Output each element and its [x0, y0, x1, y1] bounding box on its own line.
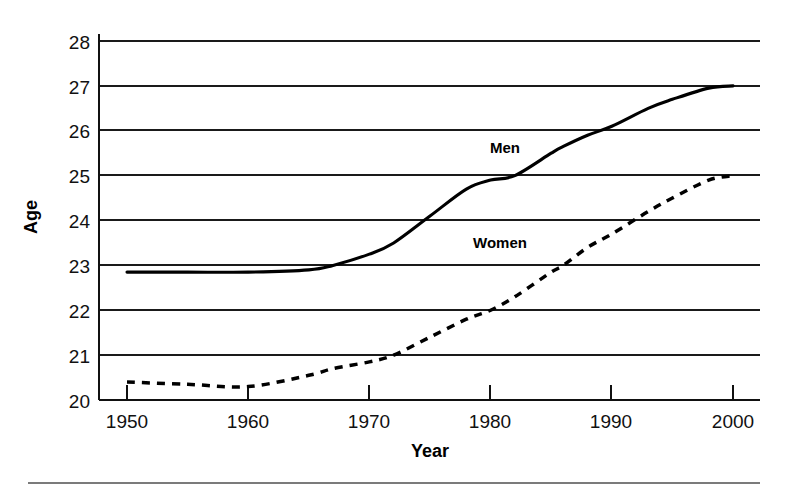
- y-tick-label-21: 21: [69, 346, 90, 367]
- y-tick-label-24: 24: [69, 211, 91, 232]
- y-tick-labels: 28 27 26 25 24 23 22 21 20: [69, 32, 91, 412]
- y-tick-label-22: 22: [69, 301, 90, 322]
- x-tick-labels: 1950 1960 1970 1980 1990 2000: [106, 411, 754, 432]
- y-tick-label-25: 25: [69, 166, 90, 187]
- x-tick-label-1980: 1980: [469, 411, 511, 432]
- series-label-women: Women: [473, 234, 527, 251]
- y-tick-label-27: 27: [69, 77, 90, 98]
- series-line-men: [127, 86, 733, 272]
- y-tick-label-20: 20: [69, 391, 90, 412]
- y-tick-label-28: 28: [69, 32, 90, 53]
- chart-canvas: 28 27 26 25 24 23 22 21 20 1950 1960 197…: [0, 0, 788, 489]
- x-tick-label-2000: 2000: [712, 411, 754, 432]
- x-axis-title: Year: [411, 441, 449, 461]
- y-tick-label-23: 23: [69, 256, 90, 277]
- gridlines: [99, 41, 760, 355]
- chart-screenshot: 28 27 26 25 24 23 22 21 20 1950 1960 197…: [0, 0, 788, 489]
- y-axis-title: Age: [21, 200, 41, 234]
- y-tick-label-26: 26: [69, 121, 90, 142]
- x-tick-label-1970: 1970: [348, 411, 390, 432]
- series-label-men: Men: [490, 139, 520, 156]
- x-tick-label-1990: 1990: [590, 411, 632, 432]
- line-chart-figure: 28 27 26 25 24 23 22 21 20 1950 1960 197…: [0, 0, 788, 489]
- x-tick-label-1960: 1960: [227, 411, 269, 432]
- x-tick-label-1950: 1950: [106, 411, 148, 432]
